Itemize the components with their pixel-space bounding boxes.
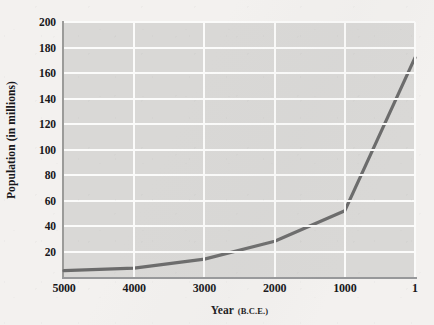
x-axis-spine <box>62 277 417 279</box>
gridline-horizontal <box>64 72 415 74</box>
y-axis-tick-label: 120 <box>39 118 56 130</box>
y-axis-tick-label: 20 <box>45 246 56 258</box>
x-axis-tick-label: 5000 <box>52 281 75 296</box>
x-axis-tick-label: 4000 <box>123 281 146 296</box>
x-axis-tick-label: 3000 <box>193 281 216 296</box>
y-axis-title: Population (in millions) <box>0 0 22 280</box>
x-axis-tick-label: 1 <box>412 281 418 296</box>
y-axis-tick-label: 200 <box>39 16 56 28</box>
plot-area <box>64 22 415 277</box>
y-axis-tick-label: 100 <box>39 144 56 156</box>
x-axis-tick-label: 1000 <box>333 281 356 296</box>
gridline-horizontal <box>64 47 415 49</box>
y-axis-tick-label: 160 <box>39 67 56 79</box>
y-axis-tick-label: 140 <box>39 93 56 105</box>
gridline-vertical <box>133 22 135 277</box>
gridline-horizontal <box>64 251 415 253</box>
y-axis-tick-label: 60 <box>45 195 56 207</box>
chart-figure: Population (in millions) 204060801001201… <box>0 0 434 325</box>
x-axis-tick-labels: 500040003000200010001 <box>0 281 434 301</box>
y-axis-tick-labels: 20406080100120140160180200 <box>22 0 60 325</box>
x-axis-title: Year (B.C.E.) <box>64 300 415 318</box>
y-axis-title-text: Population (in millions) <box>5 81 17 199</box>
y-axis-tick-label: 80 <box>45 169 56 181</box>
gridline-vertical <box>203 22 205 277</box>
gridline-horizontal <box>64 200 415 202</box>
x-axis-title-text: Year <box>211 304 234 316</box>
gridline-vertical <box>274 22 276 277</box>
gridline-horizontal <box>64 21 415 23</box>
gridline-horizontal <box>64 149 415 151</box>
y-axis-tick-label: 40 <box>45 220 56 232</box>
gridline-horizontal <box>64 123 415 125</box>
x-axis-tick-label: 2000 <box>263 281 286 296</box>
gridline-horizontal <box>64 225 415 227</box>
y-axis-tick-label: 180 <box>39 42 56 54</box>
x-axis-title-unit: (B.C.E.) <box>238 306 268 316</box>
gridline-vertical <box>344 22 346 277</box>
gridline-vertical <box>414 22 416 277</box>
gridline-horizontal <box>64 174 415 176</box>
gridline-horizontal <box>64 98 415 100</box>
population-line <box>64 58 415 271</box>
